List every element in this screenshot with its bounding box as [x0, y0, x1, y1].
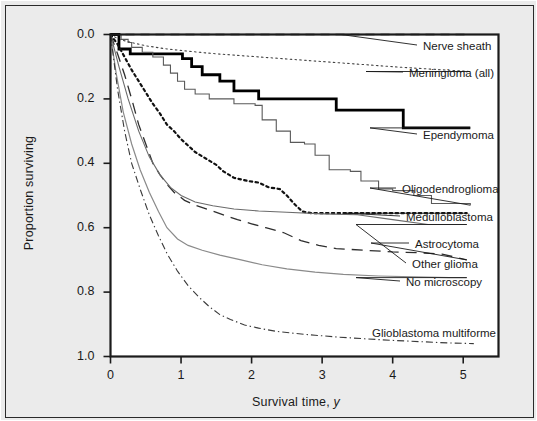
x-tick-label: 5 [453, 368, 473, 382]
x-tick-label: 2 [242, 368, 262, 382]
x-tick-label: 3 [312, 368, 332, 382]
y-tick-label: 0.2 [61, 91, 95, 105]
series-label-medulloblastoma: Medulloblastoma [406, 211, 493, 223]
x-tick-label: 0 [101, 368, 121, 382]
x-tick-label: 1 [171, 368, 191, 382]
y-tick-label: 0.6 [61, 220, 95, 234]
y-tick-label: 0.8 [61, 284, 95, 298]
x-tick-label: 4 [383, 368, 403, 382]
y-tick-label: 0.4 [61, 155, 95, 169]
series-label-ependymoma: Ependymoma [423, 129, 494, 141]
series-label-astrocytoma: Astrocytoma [415, 238, 479, 250]
series-label-meningioma-all: Meningioma (all) [409, 67, 494, 79]
figure-container: Proportion surviving Survival time, y 1.… [0, 0, 537, 421]
x-axis-title: Survival time, y [176, 395, 416, 409]
x-axis-title-text: Survival time, [252, 395, 330, 409]
x-axis-unit: y [334, 395, 340, 409]
y-axis-title: Proportion surviving [22, 113, 36, 273]
series-label-oligodendroglioma: Oligodendroglioma [402, 183, 499, 195]
series-label-nerve-sheath: Nerve sheath [423, 40, 491, 52]
y-tick-label: 0.0 [61, 27, 95, 41]
plot-area-background [111, 35, 499, 357]
series-label-no-microscopy: No microscopy [406, 276, 482, 288]
series-label-other-glioma: Other glioma [412, 258, 478, 270]
y-tick-label: 1.0 [61, 349, 95, 363]
series-label-glioblastoma-multiforme: Glioblastoma multiforme [372, 327, 496, 339]
